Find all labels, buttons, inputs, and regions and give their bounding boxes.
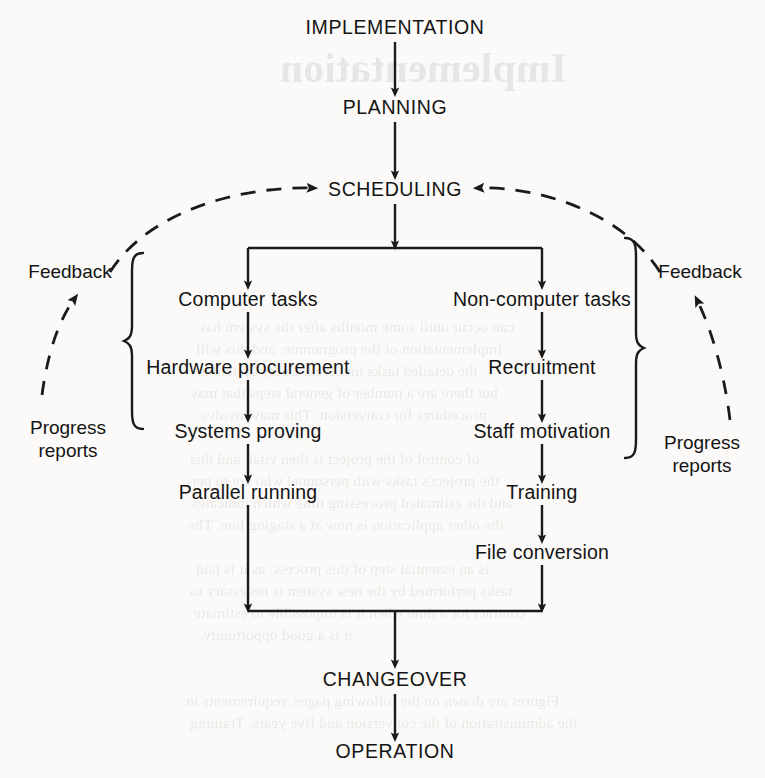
node-recruitment: Recruitment (488, 358, 595, 378)
edge-progress-reports-left-arc (42, 298, 75, 395)
node-hardware-procurement: Hardware procurement (146, 358, 349, 378)
edge-feedback-right-arc (478, 188, 660, 272)
node-systems-proving: Systems proving (174, 422, 321, 442)
node-changeover: CHANGEOVER (323, 670, 468, 690)
node-training: Training (506, 483, 577, 503)
edge-feedback-left-arc (110, 188, 313, 272)
label-progress-reports-right: Progress reports (664, 432, 740, 478)
node-parallel-running: Parallel running (179, 483, 318, 503)
progress-reports-left-line1: Progress (30, 417, 106, 440)
node-file-conversion: File conversion (475, 543, 609, 563)
node-operation: OPERATION (336, 742, 455, 762)
node-non-computer-tasks: Non-computer tasks (453, 290, 631, 310)
edge-progress-reports-right-arc (697, 300, 730, 420)
flowchart-page: Implementation can occur until some mont… (0, 0, 765, 778)
node-implementation: IMPLEMENTATION (306, 18, 485, 38)
label-feedback-right: Feedback (658, 261, 741, 283)
node-scheduling: SCHEDULING (328, 180, 462, 200)
progress-reports-left-line2: reports (30, 440, 106, 463)
node-staff-motivation: Staff motivation (473, 422, 610, 442)
progress-reports-right-line2: reports (664, 455, 740, 478)
node-planning: PLANNING (343, 98, 448, 118)
node-computer-tasks: Computer tasks (178, 290, 317, 310)
label-progress-reports-left: Progress reports (30, 417, 106, 463)
progress-reports-right-line1: Progress (664, 432, 740, 455)
label-feedback-left: Feedback (28, 261, 111, 283)
